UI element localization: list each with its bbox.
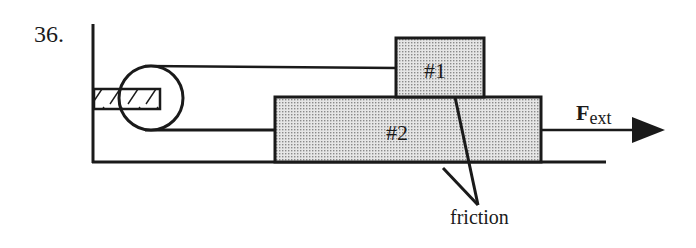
block-2	[275, 97, 541, 162]
pulley-diagram: 36. #2 #1 Fext friction	[0, 0, 696, 248]
force-symbol: F	[576, 100, 589, 125]
pulley-mount-bar	[94, 89, 160, 109]
block-2-label: #2	[386, 120, 408, 145]
force-label: Fext	[576, 100, 611, 128]
force-subscript: ext	[589, 108, 611, 128]
friction-label: friction	[450, 206, 509, 228]
rope-top	[145, 66, 397, 68]
block-1-label: #1	[424, 58, 446, 83]
problem-number: 36.	[34, 21, 64, 47]
force-arrowhead-icon	[632, 117, 665, 143]
